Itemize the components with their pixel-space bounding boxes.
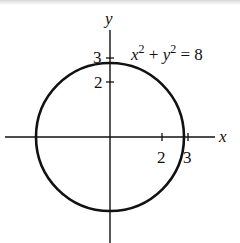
equation-label: x2 + y2 = 8 bbox=[130, 42, 203, 64]
x-axis-label: x bbox=[218, 127, 227, 146]
y-tick-label-2: 2 bbox=[94, 73, 103, 92]
y-axis-label: y bbox=[103, 9, 113, 28]
x-tick-label-2: 2 bbox=[157, 148, 166, 167]
y-tick-label-3: 3 bbox=[93, 48, 102, 67]
circle-graph: 2 3 3 2 x y x2 + y2 = 8 bbox=[0, 0, 240, 243]
x-tick-label-3: 3 bbox=[183, 148, 192, 167]
